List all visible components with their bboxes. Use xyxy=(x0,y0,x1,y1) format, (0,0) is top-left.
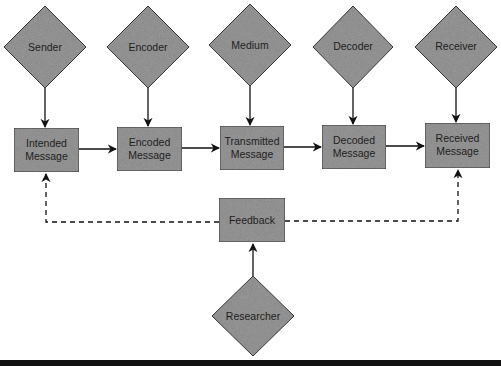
transmitted-message-node: Transmitted Message xyxy=(220,126,284,170)
feedback-node: Feedback xyxy=(219,198,285,242)
dashed-feedback-to-intended xyxy=(46,174,219,222)
transmitted-message-line1: Transmitted xyxy=(224,135,279,147)
intended-message-line1: Intended xyxy=(26,137,67,149)
decoded-message-line1: Decoded xyxy=(333,134,375,146)
encoded-message-node: Encoded Message xyxy=(117,127,182,171)
intended-message-line2: Message xyxy=(25,150,68,162)
communication-model-diagram: Sender Encoder Medium Decoder Receiver I… xyxy=(0,0,501,366)
received-message-line2: Message xyxy=(436,145,479,157)
dashed-feedback-to-received xyxy=(285,170,458,221)
decoded-message-line2: Message xyxy=(333,147,376,159)
decoded-message-node: Decoded Message xyxy=(322,125,386,169)
sender-node: Sender xyxy=(4,6,86,88)
medium-label: Medium xyxy=(231,39,269,51)
transmitted-message-line2: Message xyxy=(231,148,274,160)
encoder-node: Encoder xyxy=(107,6,189,88)
received-message-line1: Received xyxy=(436,132,480,144)
receiver-node: Receiver xyxy=(415,6,497,88)
researcher-node: Researcher xyxy=(212,276,294,356)
decoder-label: Decoder xyxy=(333,40,373,52)
encoded-message-line1: Encoded xyxy=(129,136,171,148)
bottom-border-rule xyxy=(0,360,501,366)
intended-message-node: Intended Message xyxy=(14,128,79,172)
encoded-message-line2: Message xyxy=(128,149,171,161)
sender-label: Sender xyxy=(28,41,62,53)
receiver-label: Receiver xyxy=(435,40,477,52)
decoder-node: Decoder xyxy=(313,6,393,88)
medium-node: Medium xyxy=(209,4,291,86)
researcher-label: Researcher xyxy=(226,310,281,322)
received-message-node: Received Message xyxy=(425,123,490,168)
encoder-label: Encoder xyxy=(128,41,168,53)
feedback-label: Feedback xyxy=(229,214,276,226)
